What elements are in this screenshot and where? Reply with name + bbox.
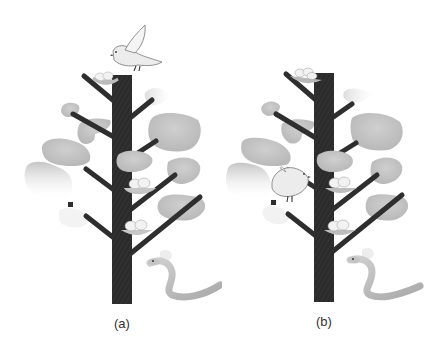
panel-label-a: (a) [114,316,130,331]
bird-flying-a [110,25,162,71]
trunk-b [314,73,334,302]
snake-a [148,259,220,297]
bird-perched-b [272,167,311,202]
branch-stub-b [271,200,276,205]
foliage-front-a [116,151,152,172]
snake-b [348,257,420,297]
tree-illustration-a [0,0,222,352]
panel-a: (a) [0,0,222,352]
panel-b: (b) [222,0,444,352]
branch-stub-a [68,202,73,207]
tree-illustration-b [222,0,444,352]
panel-label-b: (b) [316,314,332,329]
